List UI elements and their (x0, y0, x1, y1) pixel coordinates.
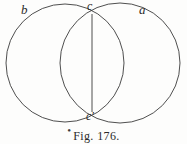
figure-caption: •Fig. 176. (0, 124, 187, 144)
caption-text: Fig. 176. (73, 129, 120, 143)
label-right-circle-a: a (139, 3, 146, 16)
label-bottom-intersection-c-prime: c' (86, 110, 94, 122)
label-left-circle-b: b (21, 3, 28, 16)
label-top-intersection-c: c (87, 0, 92, 12)
right-circle (60, 3, 180, 123)
figure-container: b c a c' •Fig. 176. (0, 0, 187, 144)
left-circle (6, 4, 124, 122)
caption-bullet-icon: • (67, 124, 71, 136)
